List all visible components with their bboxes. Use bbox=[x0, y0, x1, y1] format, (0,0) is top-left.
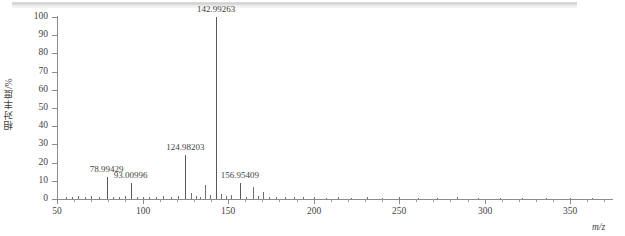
x-axis-minor-tick bbox=[297, 199, 298, 202]
spectrum-peak bbox=[163, 196, 164, 199]
x-axis-minor-tick bbox=[468, 199, 469, 202]
spectrum-peak bbox=[91, 196, 92, 199]
x-axis-tick-label: 200 bbox=[307, 206, 321, 216]
spectrum-peak bbox=[85, 197, 86, 199]
x-axis-tick-label: 250 bbox=[392, 206, 406, 216]
spectrum-peak bbox=[107, 177, 108, 199]
x-axis-minor-tick bbox=[160, 199, 161, 202]
x-axis-minor-tick bbox=[450, 199, 451, 202]
spectrum-peak bbox=[522, 198, 523, 199]
spectrum-peak bbox=[113, 197, 114, 199]
y-axis-tick-label: 30 bbox=[22, 139, 48, 149]
x-axis-minor-tick bbox=[604, 199, 605, 202]
x-axis-minor-tick bbox=[416, 199, 417, 202]
x-axis-tick bbox=[228, 199, 229, 204]
x-axis-minor-tick bbox=[262, 199, 263, 202]
spectrum-peak bbox=[156, 197, 157, 199]
x-axis-minor-tick bbox=[194, 199, 195, 202]
spectrum-peak bbox=[457, 197, 458, 199]
spectrum-peak bbox=[210, 195, 211, 199]
y-axis-tick bbox=[52, 17, 57, 18]
spectrum-peak bbox=[246, 197, 247, 199]
spectrum-peak bbox=[351, 198, 352, 199]
spectrum-peak bbox=[437, 198, 438, 199]
y-axis-tick bbox=[52, 163, 57, 164]
spectrum-peak bbox=[196, 196, 197, 199]
x-axis-minor-tick bbox=[433, 199, 434, 202]
x-axis-tick-label: 100 bbox=[136, 206, 150, 216]
y-axis-tick bbox=[52, 144, 57, 145]
y-axis-tick-label: 90 bbox=[22, 30, 48, 40]
spectrum-peak bbox=[570, 198, 571, 199]
x-axis-minor-tick bbox=[536, 199, 537, 202]
spectrum-peak bbox=[78, 196, 79, 199]
spectrum-peak bbox=[240, 183, 241, 199]
spectrum-peak bbox=[263, 192, 264, 199]
spectrum-peak bbox=[314, 197, 315, 199]
spectrum-peak bbox=[338, 197, 339, 199]
spectrum-peak bbox=[269, 197, 270, 199]
x-axis-minor-tick bbox=[519, 199, 520, 202]
spectrum-peak bbox=[500, 198, 501, 199]
spectrum-peak bbox=[478, 198, 479, 199]
x-axis-minor-tick bbox=[382, 199, 383, 202]
spectrum-peak bbox=[382, 198, 383, 199]
spectrum-peak bbox=[185, 155, 186, 199]
spectrum-peak bbox=[131, 183, 132, 199]
y-axis-tick-label: 100 bbox=[22, 12, 48, 22]
spectrum-peak bbox=[178, 196, 179, 199]
y-axis-tick-label: 50 bbox=[22, 103, 48, 113]
x-axis-minor-tick bbox=[91, 199, 92, 202]
spectrum-peak bbox=[216, 17, 217, 199]
spectrum-peak bbox=[143, 197, 144, 199]
x-axis-tick-label: 350 bbox=[563, 206, 577, 216]
y-axis-tick-label: 20 bbox=[22, 158, 48, 168]
peak-label: 93.00996 bbox=[114, 171, 148, 180]
x-axis-line bbox=[57, 199, 613, 200]
spectrum-peak bbox=[258, 196, 259, 199]
spectrum-peak bbox=[367, 197, 368, 199]
x-axis-tick bbox=[570, 199, 571, 204]
spectrum-peak bbox=[592, 198, 593, 199]
spectrum-peak bbox=[399, 197, 400, 199]
x-axis-tick-label: 50 bbox=[52, 206, 62, 216]
spectrum-peak bbox=[546, 198, 547, 199]
spectrum-peak bbox=[171, 197, 172, 199]
x-axis-minor-tick bbox=[279, 199, 280, 202]
spectrum-peak bbox=[72, 197, 73, 199]
spectrum-peak bbox=[191, 193, 192, 199]
peak-label: 156.95409 bbox=[221, 171, 259, 180]
x-axis-minor-tick bbox=[365, 199, 366, 202]
peak-label: 124.98203 bbox=[166, 143, 204, 152]
x-axis-title: m/z bbox=[592, 222, 605, 232]
x-axis-minor-tick bbox=[211, 199, 212, 202]
spectrum-peak bbox=[66, 197, 67, 199]
spectrum-peak bbox=[231, 195, 232, 199]
spectrum-peak bbox=[226, 196, 227, 199]
spectrum-peak bbox=[285, 197, 286, 199]
y-axis-tick bbox=[52, 108, 57, 109]
spectrum-peak bbox=[125, 196, 126, 199]
y-axis-tick-label: 10 bbox=[22, 176, 48, 186]
spectrum-peak bbox=[253, 187, 254, 199]
spectrum-plot-area: 相对丰度/% m/z 01020304050607080901005010015… bbox=[0, 0, 625, 236]
x-axis-minor-tick bbox=[502, 199, 503, 202]
x-axis-tick-label: 300 bbox=[478, 206, 492, 216]
y-axis-tick bbox=[52, 53, 57, 54]
y-axis-line bbox=[57, 16, 58, 200]
y-axis-tick bbox=[52, 90, 57, 91]
x-axis-minor-tick bbox=[74, 199, 75, 202]
spectrum-peak bbox=[99, 197, 100, 199]
x-axis-tick bbox=[143, 199, 144, 204]
x-axis-tick bbox=[314, 199, 315, 204]
x-axis-tick-label: 150 bbox=[221, 206, 235, 216]
spectrum-peak bbox=[205, 185, 206, 199]
spectrum-peak bbox=[221, 194, 222, 199]
x-axis-minor-tick bbox=[245, 199, 246, 202]
spectrum-peak bbox=[276, 197, 277, 199]
mass-spectrum-figure: 相对丰度/% m/z 01020304050607080901005010015… bbox=[0, 0, 625, 236]
spectrum-peak bbox=[326, 198, 327, 199]
spectrum-peak bbox=[303, 197, 304, 199]
spectrum-peak bbox=[294, 197, 295, 199]
x-axis-tick bbox=[57, 199, 58, 204]
